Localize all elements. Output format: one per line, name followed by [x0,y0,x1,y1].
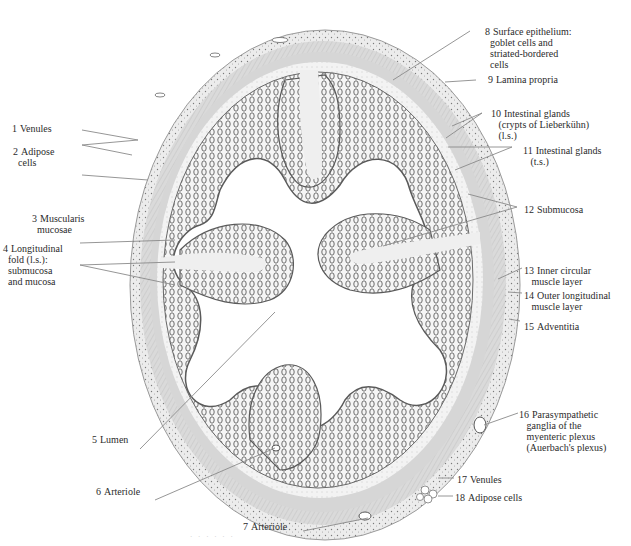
label-4: 4Longitudinal fold (l.s.): submucosa and… [3,243,63,287]
label-text: Venules [470,474,502,485]
label-number: 16 [519,409,529,420]
label-text: Intestinal glands (t.s.) [523,145,601,167]
label-3: 3Muscularis mucosae [32,213,84,235]
leader-line-3 [82,175,148,180]
label-7: 7Arteriole [243,521,287,532]
label-text: Adventitia [537,321,579,332]
label-9: 9Lamina propria [488,74,558,85]
leader-line-1 [82,130,138,140]
label-2: 2Adipose cells [13,146,54,168]
label-text: Lamina propria [496,74,558,85]
label-11: 11Intestinal glands (t.s.) [523,145,601,167]
label-number: 15 [524,321,534,332]
label-text: Parasympathetic ganglia of the myenteric… [519,409,606,453]
label-14: 14Outer longitudinal muscle layer [524,290,611,312]
label-text: Submucosa [537,204,583,215]
label-number: 4 [3,243,8,254]
label-text: Inner circular muscle layer [524,265,591,287]
figure-caption: · · · · · · [190,533,235,541]
label-number: 13 [524,265,534,276]
label-5: 5Lumen [92,434,128,445]
arteriole-6 [272,445,280,451]
label-number: 6 [96,486,101,497]
label-text: Outer longitudinal muscle layer [524,290,611,312]
label-text: Longitudinal fold (l.s.): submucosa and … [3,243,63,287]
label-number: 2 [13,146,18,157]
label-text: Lumen [100,434,128,445]
label-text: Adipose cells [13,146,54,168]
label-12: 12Submucosa [524,204,583,215]
label-text: Muscularis mucosae [32,213,84,235]
label-text: Arteriole [104,486,140,497]
label-18: 18Adipose cells [455,492,522,503]
label-number: 14 [524,290,534,301]
label-6: 6Arteriole [96,486,140,497]
label-number: 5 [92,434,97,445]
label-number: 12 [524,204,534,215]
label-number: 8 [485,26,490,37]
label-text: Intestinal glands (crypts of Lieberkühn)… [491,108,589,141]
leader-line-2a [82,140,138,145]
leader-line-2b [82,145,132,155]
label-text: Adipose cells [468,492,522,503]
label-10: 10Intestinal glands (crypts of Lieberküh… [491,108,589,141]
label-8: 8Surface epithelium: goblet cells and st… [485,26,572,70]
label-number: 9 [488,74,493,85]
label-number: 17 [457,474,467,485]
label-number: 3 [32,213,37,224]
label-15: 15Adventitia [524,321,579,332]
label-16: 16Parasympathetic ganglia of the myenter… [519,409,606,453]
label-text: Venules [20,123,52,134]
label-text: Surface epithelium: goblet cells and str… [485,26,572,70]
label-number: 7 [243,521,248,532]
label-13: 13Inner circular muscle layer [524,265,591,287]
label-number: 10 [491,108,501,119]
label-1: 1Venules [12,123,52,134]
label-number: 18 [455,492,465,503]
label-17: 17Venules [457,474,502,485]
label-number: 11 [523,145,533,156]
leader-line-9 [445,80,476,82]
label-text: Arteriole [251,521,287,532]
label-number: 1 [12,123,17,134]
